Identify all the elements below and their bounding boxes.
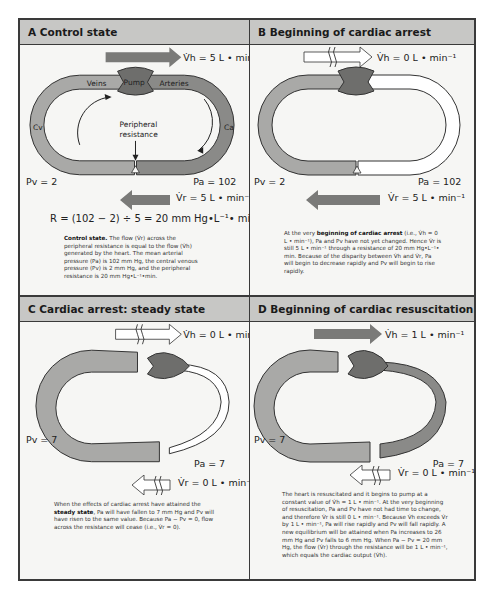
panel-cardiac-arrest-steady-state: C Cardiac arrest: steady state V̇h = 0 L… [20,297,250,579]
cv-label: Cv [33,123,43,132]
pv-label: Pv = 2 [254,176,285,187]
resistance-formula: R = (102 − 2) ÷ 5 = 20 mm Hg•L⁻¹• min [50,213,257,224]
panel-d-caption: The heart is resuscitated and it begins … [282,491,450,559]
vh-label: V̇h = 0 L • min⁻¹ [183,329,249,340]
pv-label: Pv = 7 [254,434,285,445]
panel-d-diagram: V̇h = 1 L • min⁻¹ Pa = 7 [250,322,474,472]
vh-label: V̇h = 5 L • min⁻¹ [183,52,249,63]
arteries-label: Arteries [159,79,188,88]
panel-a-caption: Control state. The flow (V̇r) across the… [64,235,204,281]
panel-a-title: A Control state [20,20,249,45]
pv-label: Pv = 2 [26,176,57,187]
pa-label: Pa = 102 [193,176,236,187]
panel-beginning-cardiac-arrest: B Beginning of cardiac arrest V̇h = 0 L … [250,20,474,297]
panel-a-diagram: V̇h = 5 L • min⁻¹ Veins Pump Arteries Cv… [20,45,249,195]
panel-d-title: D Beginning of cardiac resuscitation [250,297,474,322]
panel-b-title: B Beginning of cardiac arrest [250,20,474,45]
vr-label: V̇r = 5 L • min⁻¹ [388,192,465,203]
caption-pre: When the effects of cardiac arrest have … [54,501,201,507]
caption-pre: At the very [284,230,317,236]
ca-label: Ca [224,123,234,132]
heart-flow-arrow-stopped-icon [304,47,372,67]
caption-bold: beginning of cardiac arrest [317,230,403,236]
panel-c-diagram: V̇h = 0 L • min⁻¹ Pa = 7 [20,322,249,472]
pv-label: Pv = 7 [26,434,57,445]
caption-text: (i.e., V̇h = 0 L • min⁻¹), Pa and Pv hav… [284,230,441,274]
resistance-label-2: resistance [120,130,159,139]
heart-flow-arrow-stopped-icon [116,324,182,344]
panel-b-caption: At the very beginning of cardiac arrest … [284,230,442,276]
panel-control-state: A Control state V̇h = 5 L • min⁻¹ Veins [20,20,250,297]
circulation-loop-diagram: V̇h = 0 L • min⁻¹ Pv = 2 Pa = 102 [250,45,474,195]
circulation-loop-diagram: V̇h = 0 L • min⁻¹ Pa = 7 [20,322,249,472]
pump-label: Pump [124,78,145,87]
caption-bold: steady state [54,509,93,515]
circulation-loop-diagram: V̇h = 1 L • min⁻¹ Pa = 7 [250,322,474,472]
circulation-loop-diagram: V̇h = 5 L • min⁻¹ Veins Pump Arteries Cv… [20,45,249,195]
pa-label: Pa = 7 [194,458,225,469]
heart-flow-arrow-icon [106,47,182,67]
pump-icon [348,350,388,378]
panel-b-diagram: V̇h = 0 L • min⁻¹ Pv = 2 Pa = 102 [250,45,474,195]
pump-icon [338,67,374,95]
caption-bold: Control state. [64,235,107,241]
pa-label: Pa = 102 [418,176,461,187]
heart-flow-arrow-icon [314,324,382,344]
vr-label: V̇r = 0 L • min⁻¹ [398,467,475,478]
caption-text: The flow (V̇r) across the peripheral res… [64,235,198,279]
pump-icon [147,353,189,379]
panel-c-title: C Cardiac arrest: steady state [20,297,249,322]
vr-label: V̇r = 0 L • min⁻¹ [178,477,255,488]
veins-label: Veins [87,79,107,88]
vh-label: V̇h = 0 L • min⁻¹ [377,52,456,63]
panel-beginning-cardiac-resuscitation: D Beginning of cardiac resuscitation V̇h… [250,297,474,579]
vr-label: V̇r = 5 L • min⁻¹ [176,192,253,203]
resistance-label: Peripheral [120,120,158,129]
vh-label: V̇h = 1 L • min⁻¹ [385,329,464,340]
panel-c-caption: When the effects of cardiac arrest have … [54,501,222,531]
figure-frame: A Control state V̇h = 5 L • min⁻¹ Veins [18,18,476,581]
